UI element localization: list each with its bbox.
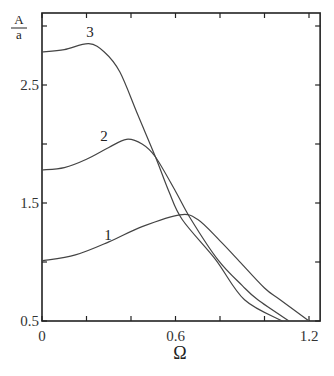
x-tick-label: 0.6 [166,328,185,344]
plot-frame [42,13,320,321]
plot-border [42,13,320,321]
curve-1 [42,214,309,321]
y-axis-title-numerator: A [14,12,24,27]
curve-label-1: 1 [104,227,112,243]
x-tick-label: 0 [38,328,46,344]
curves [42,44,309,321]
x-tick-label: 1.2 [300,328,319,344]
curve-label-3: 3 [86,24,94,40]
y-tick-label: 1.5 [20,195,39,211]
y-tick-label: 2.5 [20,77,39,93]
curve-3 [42,44,282,321]
line-chart: 00.61.20.51.52.5 123 Ω A a [0,0,334,376]
curve-labels: 123 [86,24,112,243]
tick-labels: 00.61.20.51.52.5 [20,77,318,344]
y-axis-title: A a [11,12,27,42]
curve-2 [42,139,289,321]
x-axis-title: Ω [173,343,186,363]
y-axis-title-denominator: a [16,27,22,42]
axis-ticks [42,13,320,321]
y-tick-label: 0.5 [20,313,39,329]
curve-label-2: 2 [100,128,108,144]
